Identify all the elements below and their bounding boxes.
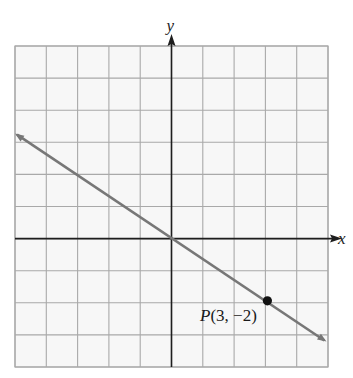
coordinate-plane-figure: x y P(3, −2) (0, 0, 353, 378)
data-points (263, 296, 272, 305)
point-p-label: P(3, −2) (199, 306, 257, 325)
x-axis-label: x (337, 229, 346, 248)
point-p-coords: (3, −2) (210, 306, 256, 325)
point-p-dot (263, 296, 272, 305)
point-p-name: P (199, 306, 210, 325)
y-axis-label: y (165, 16, 175, 35)
